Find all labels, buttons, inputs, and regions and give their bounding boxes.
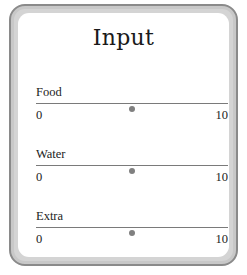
input-panel: Input Food 0 10 Water 0 10 Extra 0 10 — [18, 13, 229, 257]
slider-min-label: 0 — [36, 170, 42, 185]
slider-thumb[interactable] — [129, 230, 135, 236]
slider-track[interactable] — [36, 103, 228, 104]
slider-thumb[interactable] — [129, 106, 135, 112]
slider-extra[interactable]: Extra 0 10 — [36, 209, 228, 249]
slider-label: Food — [36, 85, 62, 100]
slider-track[interactable] — [36, 165, 228, 166]
slider-max-label: 10 — [216, 170, 229, 185]
slider-min-label: 0 — [36, 108, 42, 123]
slider-label: Extra — [36, 209, 63, 224]
input-panel-frame: Input Food 0 10 Water 0 10 Extra 0 10 — [9, 4, 238, 266]
panel-title: Input — [18, 25, 229, 50]
slider-label: Water — [36, 147, 66, 162]
slider-track[interactable] — [36, 227, 228, 228]
slider-water[interactable]: Water 0 10 — [36, 147, 228, 187]
slider-max-label: 10 — [216, 108, 229, 123]
slider-max-label: 10 — [216, 232, 229, 247]
slider-food[interactable]: Food 0 10 — [36, 85, 228, 125]
slider-thumb[interactable] — [129, 168, 135, 174]
slider-min-label: 0 — [36, 232, 42, 247]
